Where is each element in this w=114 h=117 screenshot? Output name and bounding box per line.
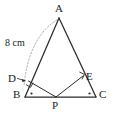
segment-ac [59, 18, 96, 97]
vertex-label-d: D [8, 73, 16, 84]
angle-dot-at-b [30, 92, 32, 94]
segment-pe [56, 76, 83, 97]
vertex-label-a: A [55, 3, 63, 14]
vertex-label-b: B [13, 89, 20, 100]
segment-ab [25, 18, 59, 97]
measure-label-side-ab: 8 cm [5, 38, 25, 48]
vertex-label-e: E [86, 71, 93, 82]
leader-arrow-head-d [22, 79, 26, 82]
vertex-label-c: C [99, 89, 106, 100]
angle-dot-at-c [88, 92, 90, 94]
vertex-label-p: P [52, 100, 58, 111]
geometry-figure: A B C P D E 8 cm [0, 0, 114, 117]
measure-arc-a-to-d [24, 20, 57, 86]
